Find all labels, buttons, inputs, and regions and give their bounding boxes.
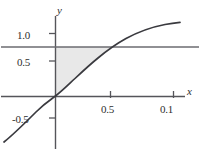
x-tick-label-1.0: 0.1	[160, 103, 173, 115]
math-figure: 1.0 0.5 -0.5 0.5 0.1 y x	[0, 0, 201, 149]
curve-path	[4, 22, 180, 142]
y-axis-label: y	[57, 4, 62, 16]
y-tick-label-0.5: 0.5	[17, 56, 30, 68]
x-axis-label: x	[187, 85, 192, 97]
plot-canvas	[0, 0, 201, 149]
y-tick-label-1.0: 1.0	[17, 29, 30, 41]
x-tick-label-0.5: 0.5	[101, 103, 114, 115]
y-tick-label-minus-0.5: -0.5	[12, 113, 29, 125]
